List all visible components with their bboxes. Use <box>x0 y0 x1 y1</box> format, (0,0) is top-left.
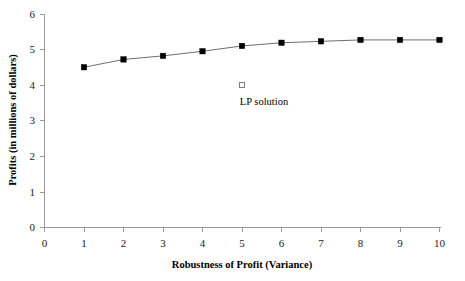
x-tick-label-4: 4 <box>200 237 206 249</box>
y-tick-label-6: 6 <box>30 8 36 20</box>
lp-solution-annotation: LP solution <box>240 83 289 108</box>
x-tick-label-10: 10 <box>434 237 446 249</box>
line-chart: 0 1 2 3 4 5 6 0 1 2 3 4 <box>0 0 465 281</box>
y-axis-title: Profits (in millions of dollars) <box>7 54 19 186</box>
x-tick-label-8: 8 <box>358 237 364 249</box>
y-tick-label-1: 1 <box>30 186 36 198</box>
x-tick-label-9: 9 <box>397 237 403 249</box>
data-point-marker <box>239 43 244 48</box>
x-tick-label-1: 1 <box>81 237 87 249</box>
series-line-profit-frontier <box>84 40 440 67</box>
y-tick-label-5: 5 <box>30 43 36 55</box>
data-point-marker <box>397 37 402 42</box>
data-point-marker <box>81 65 86 70</box>
y-tick-label-0: 0 <box>30 221 36 233</box>
x-tick-label-2: 2 <box>121 237 127 249</box>
y-tick-label-2: 2 <box>30 150 36 162</box>
x-tick-labels: 0 1 2 3 4 5 6 7 8 9 10 <box>42 237 446 249</box>
x-tick-label-3: 3 <box>160 237 166 249</box>
y-tick-labels: 0 1 2 3 4 5 6 <box>30 8 36 234</box>
data-point-marker <box>160 53 165 58</box>
x-tick-label-0: 0 <box>42 237 48 249</box>
y-tick-marks <box>40 14 44 228</box>
data-point-marker <box>200 49 205 54</box>
x-tick-label-5: 5 <box>239 237 245 249</box>
series-markers <box>81 37 442 70</box>
data-point-marker <box>358 37 363 42</box>
lp-solution-marker <box>240 83 245 88</box>
x-tick-label-6: 6 <box>279 237 285 249</box>
data-point-marker <box>121 57 126 62</box>
y-tick-label-3: 3 <box>30 114 36 126</box>
x-axis-title: Robustness of Profit (Variance) <box>172 259 313 271</box>
x-tick-label-7: 7 <box>318 237 324 249</box>
y-tick-label-4: 4 <box>30 79 36 91</box>
lp-solution-label: LP solution <box>240 96 289 107</box>
chart-container: 0 1 2 3 4 5 6 0 1 2 3 4 <box>0 0 465 281</box>
data-point-marker <box>318 39 323 44</box>
data-point-marker <box>279 40 284 45</box>
data-point-marker <box>437 37 442 42</box>
